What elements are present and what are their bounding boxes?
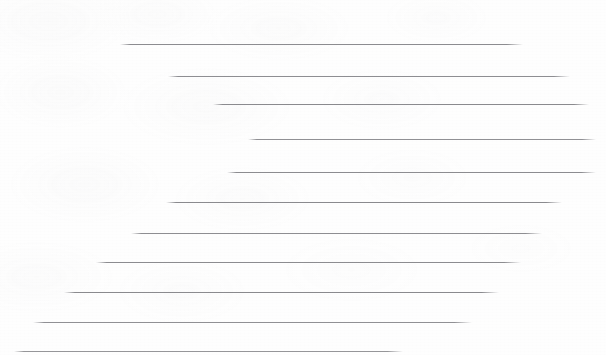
rule-line-stroke [248, 139, 596, 140]
rule-line-5 [227, 172, 596, 173]
paper-texture-overlay [0, 0, 606, 355]
rule-line-3 [213, 104, 589, 105]
rule-line-stroke [96, 262, 521, 263]
rule-line-10 [33, 322, 472, 323]
rule-line-stroke [213, 104, 589, 105]
rule-line-2 [168, 76, 570, 77]
scanned-page-canvas [0, 0, 606, 355]
rule-line-9 [64, 292, 499, 293]
rule-line-11 [14, 351, 403, 352]
rule-line-8 [96, 262, 521, 263]
rule-line-stroke [168, 76, 570, 77]
rule-line-6 [166, 202, 562, 203]
rule-line-stroke [64, 292, 499, 293]
rule-line-4 [248, 139, 596, 140]
rule-line-7 [131, 233, 542, 234]
rule-line-stroke [120, 44, 523, 45]
rule-line-1 [120, 44, 523, 45]
rule-line-stroke [227, 172, 596, 173]
rule-line-stroke [33, 322, 472, 323]
rule-line-stroke [131, 233, 542, 234]
rule-line-stroke [14, 351, 403, 352]
rule-line-stroke [166, 202, 562, 203]
scan-noise-overlay [0, 0, 606, 355]
